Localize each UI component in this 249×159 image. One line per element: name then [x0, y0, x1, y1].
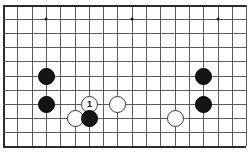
- star-point: [130, 18, 133, 21]
- grid-line-horizontal: [3, 47, 246, 48]
- stone-white-c12r8[interactable]: [167, 110, 184, 127]
- stone-black-c3r5[interactable]: [38, 68, 55, 85]
- stone-black-c14r7[interactable]: [195, 96, 212, 113]
- stone-black-c14r5[interactable]: [195, 68, 212, 85]
- star-point: [216, 18, 219, 21]
- grid-line-vertical: [246, 5, 247, 146]
- grid-line-horizontal: [3, 5, 246, 7]
- grid-line-horizontal: [3, 90, 246, 91]
- grid-line-horizontal: [3, 132, 246, 133]
- star-point: [44, 18, 47, 21]
- grid-line-horizontal: [3, 19, 246, 20]
- grid-line-horizontal: [3, 118, 246, 119]
- go-board-diagram: 1: [0, 0, 249, 159]
- go-board-surface: 1: [0, 0, 249, 159]
- stone-black-c6r8[interactable]: [81, 110, 98, 127]
- stone-black-c3r7[interactable]: [38, 96, 55, 113]
- grid-line-horizontal: [3, 61, 246, 62]
- stone-white-c8r7[interactable]: [109, 96, 126, 113]
- grid-line-horizontal: [3, 146, 246, 148]
- grid-line-horizontal: [3, 33, 246, 34]
